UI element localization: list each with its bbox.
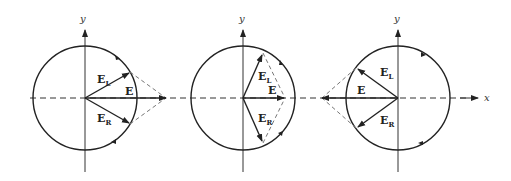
label-E: E bbox=[268, 84, 276, 97]
panel-1: y EL E ER bbox=[33, 13, 166, 172]
y-axis-label: y bbox=[238, 13, 245, 24]
label-ER: ER bbox=[97, 112, 111, 127]
label-E: E bbox=[125, 85, 133, 98]
panel-2: y EL E ER bbox=[191, 13, 295, 172]
x-axis-label: x bbox=[484, 92, 490, 103]
label-EL: EL bbox=[380, 66, 393, 81]
label-E: E bbox=[357, 84, 365, 97]
label-ER: ER bbox=[380, 114, 394, 129]
label-EL: EL bbox=[97, 73, 110, 88]
label-EL: EL bbox=[258, 70, 271, 85]
polarization-diagram: x y EL E ER y EL E ER y bbox=[0, 0, 511, 181]
dashed-parallelogram bbox=[322, 68, 356, 98]
label-ER: ER bbox=[258, 112, 272, 127]
y-axis-label: y bbox=[79, 13, 86, 24]
panel-3: y EL E ER bbox=[322, 13, 450, 172]
y-axis-label: y bbox=[393, 13, 400, 24]
dashed-parallelogram bbox=[322, 98, 356, 128]
